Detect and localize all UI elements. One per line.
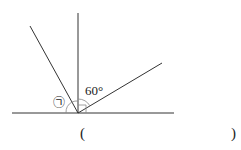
angle-arc-inner [72, 101, 78, 102]
angle-60-label: 60° [85, 84, 103, 97]
answer-paren-open: ( [80, 126, 85, 141]
answer-paren-close: ) [231, 126, 236, 141]
angle-diagram [0, 0, 241, 150]
unknown-angle-label: ㉠ [53, 97, 65, 109]
angle-arc-left [66, 102, 72, 113]
